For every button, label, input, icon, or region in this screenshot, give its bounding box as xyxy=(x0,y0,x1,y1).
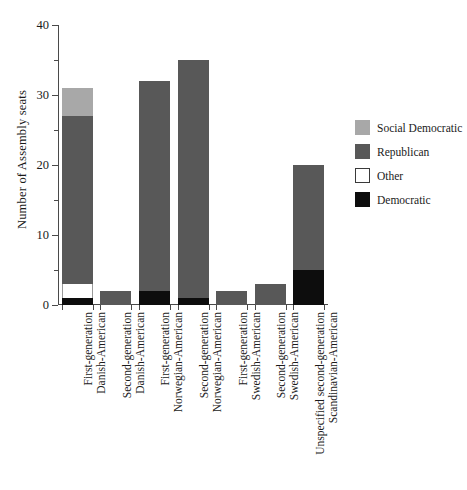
x-tick xyxy=(131,305,132,310)
legend-label: Other xyxy=(377,170,403,182)
x-axis-labels: First-generationDanish-AmericanSecond-ge… xyxy=(58,312,328,487)
x-axis-label: Second-generationDanish-American xyxy=(121,312,147,487)
bar-segment-republican xyxy=(100,291,131,305)
stacked-bar[interactable] xyxy=(255,284,286,305)
y-axis-title: Number of Assembly seats xyxy=(15,60,30,260)
y-tick-label: 40 xyxy=(37,18,50,33)
x-axis-label: First-generationSwedish-American xyxy=(237,312,263,487)
y-tick-label: 0 xyxy=(43,298,49,313)
stacked-bar[interactable] xyxy=(293,165,324,305)
legend-swatch-icon xyxy=(355,144,370,159)
x-tick xyxy=(62,305,63,310)
y-tick-label: 30 xyxy=(37,88,50,103)
legend-item[interactable]: Republican xyxy=(355,144,462,159)
plot-area: 010203040 xyxy=(58,25,328,305)
x-tick xyxy=(178,305,179,310)
stacked-bar[interactable] xyxy=(62,88,93,305)
x-tick xyxy=(170,305,171,310)
bar-segment-democratic xyxy=(139,291,170,305)
bar-segment-republican xyxy=(139,81,170,291)
y-tick-label: 20 xyxy=(37,158,50,173)
bar-segment-democratic xyxy=(62,298,93,305)
x-tick xyxy=(216,305,217,310)
legend-item[interactable]: Social Democratic xyxy=(355,120,462,135)
legend-swatch-icon xyxy=(355,168,370,183)
stacked-bar[interactable] xyxy=(100,291,131,305)
bar-segment-democratic xyxy=(293,270,324,305)
x-tick xyxy=(139,305,140,310)
stacked-bar[interactable] xyxy=(216,291,247,305)
bar-segment-republican xyxy=(178,60,209,298)
x-tick xyxy=(255,305,256,310)
bar-segment-other xyxy=(62,284,93,298)
chart-root: Number of Assembly seats 010203040 First… xyxy=(0,0,467,490)
x-tick xyxy=(93,305,94,310)
bar-group xyxy=(58,25,328,305)
x-axis-label: First-generationDanish-American xyxy=(82,312,108,487)
stacked-bar[interactable] xyxy=(139,81,170,305)
legend-item[interactable]: Democratic xyxy=(355,192,462,207)
legend-label: Social Democratic xyxy=(377,122,462,134)
x-tick xyxy=(286,305,287,310)
chart-legend: Social DemocraticRepublicanOtherDemocrat… xyxy=(355,120,462,207)
legend-swatch-icon xyxy=(355,192,370,207)
x-tick xyxy=(209,305,210,310)
x-axis-label: First-generationNorwegian-American xyxy=(159,312,185,487)
bar-segment-republican xyxy=(62,116,93,284)
x-tick xyxy=(100,305,101,310)
bar-segment-democratic xyxy=(178,298,209,305)
bar-segment-republican xyxy=(216,291,247,305)
x-axis-label: Second-generationNorwegian-American xyxy=(198,312,224,487)
x-axis-label: Unspecified second-generationScandinavia… xyxy=(314,312,340,487)
y-tick-major xyxy=(52,305,58,306)
x-tick xyxy=(247,305,248,310)
legend-label: Democratic xyxy=(377,194,431,206)
legend-swatch-icon xyxy=(355,120,370,135)
bar-segment-social-democratic xyxy=(62,88,93,116)
bar-segment-republican xyxy=(293,165,324,270)
legend-label: Republican xyxy=(377,146,429,158)
x-tick xyxy=(324,305,325,310)
stacked-bar[interactable] xyxy=(178,60,209,305)
y-tick-label: 10 xyxy=(37,228,50,243)
legend-item[interactable]: Other xyxy=(355,168,462,183)
bar-segment-republican xyxy=(255,284,286,305)
x-tick xyxy=(293,305,294,310)
x-axis-label: Second-generationSwedish-American xyxy=(275,312,301,487)
